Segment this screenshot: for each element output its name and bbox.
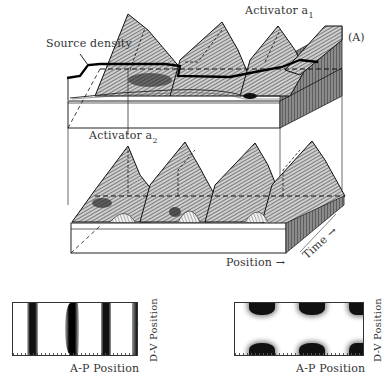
activator-a2-label: Activator a2	[89, 129, 158, 142]
activator-a1-label: Activator a1	[245, 4, 314, 17]
panel-c-x-label: A-P Position	[296, 362, 365, 375]
panel-a-tag: (A)	[348, 31, 365, 44]
source-density-label: Source density	[46, 37, 132, 50]
upper-surface-a1	[67, 14, 342, 128]
position-axis-label: Position →	[226, 256, 285, 269]
panel-b-y-label: D-V Position	[148, 298, 159, 362]
panel-c-y-label: D-V Position	[372, 298, 383, 362]
lower-surface-a2	[71, 141, 345, 253]
stripe-pattern-plot	[12, 302, 138, 356]
patch-pattern-plot	[234, 302, 364, 356]
panel-b-x-label: A-P Position	[70, 362, 139, 375]
